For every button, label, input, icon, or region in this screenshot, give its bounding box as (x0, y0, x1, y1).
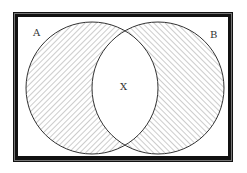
set-b-label: B (210, 29, 217, 40)
venn-diagram: A B X (0, 0, 247, 173)
intersection-label: X (120, 81, 128, 92)
set-a-label: A (32, 27, 41, 38)
